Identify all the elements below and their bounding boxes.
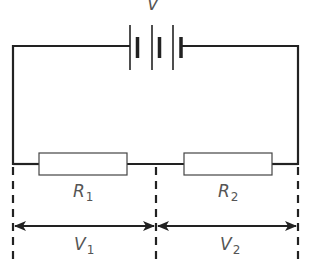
r2-symbol: R <box>218 181 230 201</box>
resistor-r2-icon <box>184 153 272 175</box>
battery-icon <box>130 25 181 70</box>
v1-symbol: V <box>74 234 86 254</box>
v2-symbol: V <box>220 234 232 254</box>
v2-subscript: 2 <box>233 243 241 257</box>
battery-label-text: V <box>147 0 159 14</box>
r1-subscript: 1 <box>86 190 94 204</box>
wire-top-left <box>13 46 130 165</box>
battery-label: V <box>147 0 159 13</box>
wire-top-right <box>182 46 298 165</box>
r1-symbol: R <box>73 181 85 201</box>
voltage-v1-label: V1 <box>74 236 94 256</box>
r2-subscript: 2 <box>231 190 239 204</box>
v1-subscript: 1 <box>87 243 95 257</box>
voltage-v2-label: V2 <box>220 236 240 256</box>
resistor-r1-icon <box>39 153 127 175</box>
resistor-r2-label: R2 <box>218 183 238 203</box>
resistor-r1-label: R1 <box>73 183 93 203</box>
circuit-diagram <box>0 0 309 263</box>
